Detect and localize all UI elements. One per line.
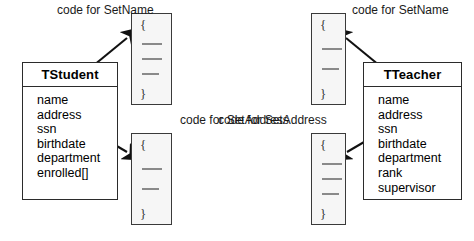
code-box-student-setname[interactable]: { } xyxy=(131,13,172,105)
class-attributes-tteacher: name address ssn birthdate department ra… xyxy=(364,87,461,195)
attribute-item: supervisor xyxy=(378,181,461,196)
code-statement-line xyxy=(322,48,342,50)
caption-teacher-setaddress: code for SetAddress xyxy=(218,114,327,127)
open-brace: { xyxy=(320,19,338,30)
class-box-tstudent[interactable]: TStudent name address ssn birthdate depa… xyxy=(22,62,118,200)
class-title-tstudent: TStudent xyxy=(23,63,117,87)
open-brace: { xyxy=(140,139,164,150)
attribute-item: rank xyxy=(378,166,461,181)
code-statement-line xyxy=(142,73,159,75)
code-statement-line xyxy=(322,68,339,70)
attribute-item: address xyxy=(37,108,117,123)
class-title-tteacher: TTeacher xyxy=(364,63,461,87)
code-box-student-setaddress[interactable]: { } xyxy=(131,133,172,225)
close-brace: } xyxy=(320,88,338,99)
attribute-item: ssn xyxy=(378,122,461,137)
attribute-item: birthdate xyxy=(378,137,461,152)
attribute-item: ssn xyxy=(37,122,117,137)
close-brace: } xyxy=(140,208,164,219)
diagram-canvas: TStudent name address ssn birthdate depa… xyxy=(0,0,474,241)
code-statement-line xyxy=(322,163,342,165)
attribute-item: birthdate xyxy=(37,137,117,152)
close-brace: } xyxy=(320,208,338,219)
open-brace: { xyxy=(320,139,338,150)
code-statement-line xyxy=(142,168,162,170)
caption-teacher-setname: code for SetName xyxy=(352,4,449,17)
code-box-teacher-setaddress[interactable]: { } xyxy=(311,133,346,225)
attribute-item: enrolled[] xyxy=(37,166,117,181)
code-statement-line xyxy=(142,43,162,45)
attribute-item: department xyxy=(378,151,461,166)
code-statement-line xyxy=(142,188,159,190)
code-statement-line xyxy=(322,193,339,195)
class-attributes-tstudent: name address ssn birthdate department en… xyxy=(23,87,117,181)
attribute-item: name xyxy=(378,93,461,108)
code-statement-line xyxy=(322,178,342,180)
code-box-teacher-setname[interactable]: { } xyxy=(311,13,346,105)
attribute-item: department xyxy=(37,151,117,166)
attribute-item: name xyxy=(37,93,117,108)
class-box-tteacher[interactable]: TTeacher name address ssn birthdate depa… xyxy=(363,62,462,200)
code-statement-line xyxy=(142,58,162,60)
open-brace: { xyxy=(140,19,164,30)
caption-student-setname: code for SetName xyxy=(57,4,154,17)
attribute-item: address xyxy=(378,108,461,123)
close-brace: } xyxy=(140,88,164,99)
